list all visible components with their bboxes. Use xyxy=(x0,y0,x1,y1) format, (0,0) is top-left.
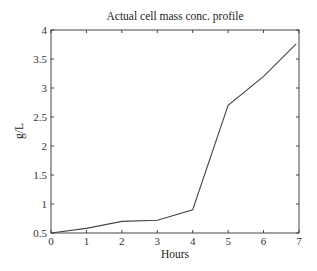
x-axis-label: Hours xyxy=(161,248,190,260)
y-tick-label: 1 xyxy=(42,198,48,210)
y-tick-label: 3.5 xyxy=(33,53,47,65)
y-tick-label: 1.5 xyxy=(33,169,47,181)
x-tick-label: 5 xyxy=(225,235,231,247)
x-tick-label: 0 xyxy=(48,235,54,247)
y-tick-label: 3 xyxy=(42,82,48,94)
y-tick-label: 4 xyxy=(42,24,48,36)
y-tick-label: 2 xyxy=(42,140,48,152)
y-axis-label: g/L xyxy=(13,123,26,139)
x-tick-label: 6 xyxy=(261,235,267,247)
chart: Actual cell mass conc. profile 012345670… xyxy=(0,0,317,271)
x-tick-label: 1 xyxy=(84,235,90,247)
plot-area: 012345670.511.522.533.54 xyxy=(33,24,302,247)
axes-frame xyxy=(51,30,299,233)
chart-title: Actual cell mass conc. profile xyxy=(107,10,244,23)
x-tick-label: 2 xyxy=(119,235,125,247)
y-tick-label: 0.5 xyxy=(33,227,47,239)
x-tick-label: 3 xyxy=(155,235,161,247)
series-line xyxy=(51,44,296,233)
y-tick-label: 2.5 xyxy=(33,111,47,123)
x-tick-label: 4 xyxy=(190,235,196,247)
x-tick-label: 7 xyxy=(296,235,302,247)
